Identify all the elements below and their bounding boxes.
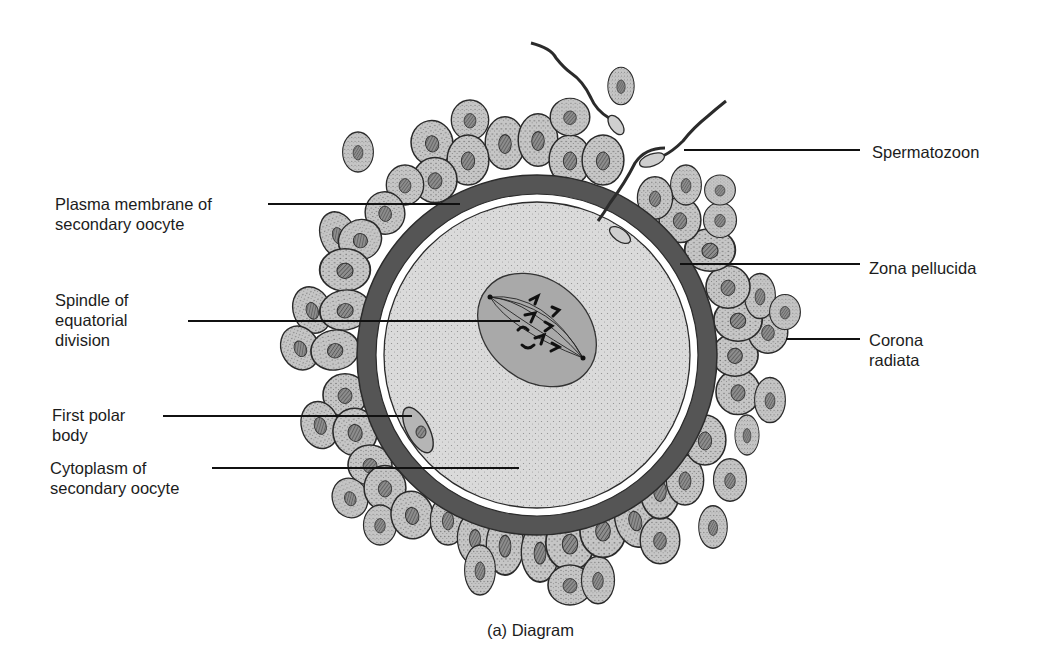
label-line: equatorial <box>55 310 128 330</box>
label-plasma-membrane: Plasma membrane of secondary oocyte <box>55 194 212 234</box>
label-zona-pellucida: Zona pellucida <box>869 258 976 278</box>
label-cytoplasm: Cytoplasm of secondary oocyte <box>50 458 179 498</box>
label-line: body <box>52 425 125 445</box>
oocyte-diagram <box>0 0 1061 656</box>
label-line: radiata <box>869 350 923 370</box>
label-line: Cytoplasm of <box>50 458 179 478</box>
label-line: First polar <box>52 405 125 425</box>
figure-caption: (a) Diagram <box>0 621 1061 640</box>
label-line: Spindle of <box>55 290 128 310</box>
label-line: secondary oocyte <box>50 478 179 498</box>
label-line: Plasma membrane of <box>55 194 212 214</box>
label-line: Corona <box>869 330 923 350</box>
label-spindle: Spindle of equatorial division <box>55 290 128 350</box>
label-line: division <box>55 330 128 350</box>
label-line: Spermatozoon <box>872 142 979 162</box>
label-first-polar-body: First polar body <box>52 405 125 445</box>
label-corona-radiata: Corona radiata <box>869 330 923 370</box>
label-line: secondary oocyte <box>55 214 212 234</box>
label-spermatozoon: Spermatozoon <box>872 142 979 162</box>
label-line: Zona pellucida <box>869 258 976 278</box>
